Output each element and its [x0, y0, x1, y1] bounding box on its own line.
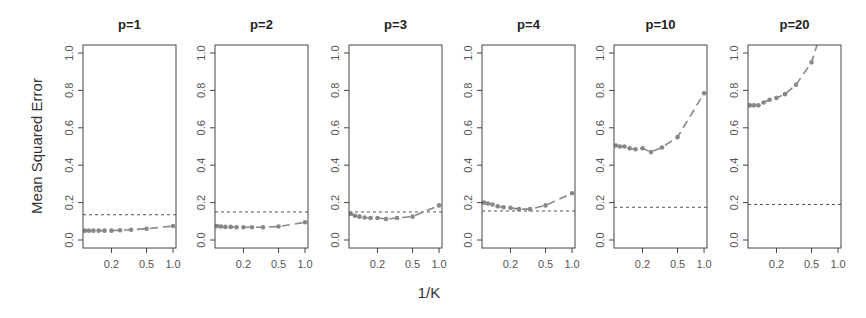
y-axis-title: Mean Squared Error	[28, 78, 45, 214]
x-tick-label: 0.2	[370, 258, 385, 270]
plot-frame	[215, 45, 308, 248]
knn-mse-point	[756, 103, 761, 108]
knn-mse-point	[223, 225, 228, 230]
knn-mse-point	[357, 214, 362, 219]
panel-p-2: p=20.00.20.40.60.81.00.20.51.0	[195, 17, 313, 270]
y-tick-label: 1.0	[594, 45, 606, 60]
y-tick-label: 0.0	[63, 232, 75, 247]
knn-mse-point	[87, 228, 92, 233]
knn-mse-point	[362, 215, 367, 220]
knn-mse-line	[750, 0, 838, 105]
knn-mse-point	[794, 82, 799, 87]
x-tick-label: 0.2	[769, 258, 784, 270]
x-axis-title: 1/K	[418, 284, 441, 301]
x-tick-label: 0.5	[405, 258, 420, 270]
y-tick-label: 0.4	[594, 158, 606, 173]
knn-mse-point	[129, 227, 134, 232]
knn-mse-point	[495, 204, 500, 209]
x-tick-label: 0.2	[236, 258, 251, 270]
knn-mse-point	[375, 216, 380, 221]
y-tick-label: 0.6	[63, 120, 75, 135]
panel-title: p=20	[780, 17, 810, 32]
knn-mse-point	[250, 225, 255, 230]
knn-mse-point	[528, 207, 533, 212]
knn-mse-point	[96, 228, 101, 233]
knn-mse-point	[102, 228, 107, 233]
y-tick-label: 0.6	[329, 120, 341, 135]
y-tick-label: 1.0	[63, 45, 75, 60]
x-tick-label: 0.5	[804, 258, 819, 270]
plot-frame	[482, 45, 575, 248]
knn-mse-point	[517, 207, 522, 212]
y-tick-label: 0.8	[594, 83, 606, 98]
knn-mse-point	[384, 217, 389, 222]
y-tick-label: 0.6	[462, 120, 474, 135]
y-tick-label: 0.8	[195, 83, 207, 98]
panel-title: p=10	[646, 17, 676, 32]
knn-mse-point	[368, 216, 373, 221]
panels: p=10.00.20.40.60.81.00.20.51.0p=20.00.20…	[63, 0, 846, 270]
knn-mse-point	[570, 191, 575, 196]
knn-mse-point	[761, 100, 766, 105]
y-tick-label: 1.0	[195, 45, 207, 60]
x-tick-label: 0.5	[670, 258, 685, 270]
y-tick-label: 0.0	[462, 232, 474, 247]
y-tick-label: 0.2	[329, 195, 341, 210]
y-tick-label: 0.8	[728, 83, 740, 98]
knn-mse-point	[508, 206, 513, 211]
knn-mse-point	[171, 224, 176, 229]
y-tick-label: 0.4	[329, 158, 341, 173]
y-tick-label: 0.0	[594, 232, 606, 247]
knn-mse-point	[809, 60, 814, 65]
panel-p-3: p=30.00.20.40.60.81.00.20.51.0	[329, 17, 447, 270]
y-tick-label: 0.0	[728, 232, 740, 247]
y-tick-label: 0.2	[594, 195, 606, 210]
panel-title: p=4	[517, 17, 541, 32]
knn-mse-point	[774, 96, 779, 101]
y-tick-label: 0.4	[195, 158, 207, 173]
x-tick-label: 1.0	[165, 258, 180, 270]
knn-mse-point	[543, 203, 548, 208]
y-tick-label: 0.8	[63, 83, 75, 98]
knn-mse-point	[261, 225, 266, 230]
x-tick-label: 1.0	[696, 258, 711, 270]
knn-mse-point	[437, 203, 442, 208]
x-tick-label: 1.0	[564, 258, 579, 270]
y-tick-label: 0.4	[728, 158, 740, 173]
x-tick-label: 1.0	[830, 258, 845, 270]
knn-mse-point	[228, 225, 233, 230]
y-tick-label: 0.2	[195, 195, 207, 210]
knn-mse-point	[501, 205, 506, 210]
panel-title: p=2	[250, 17, 273, 32]
plot-frame	[748, 45, 841, 248]
panel-p-20: p=200.00.20.40.60.81.00.20.51.0	[728, 0, 846, 270]
knn-mse-point	[118, 228, 123, 233]
knn-mse-point	[303, 220, 308, 225]
knn-mse-point	[109, 228, 114, 233]
knn-mse-point	[627, 146, 632, 151]
knn-mse-point	[633, 147, 638, 152]
y-tick-label: 1.0	[329, 45, 341, 60]
knn-mse-point	[618, 144, 623, 149]
knn-mse-point	[767, 97, 772, 102]
knn-mse-point	[91, 228, 96, 233]
x-tick-label: 0.2	[635, 258, 650, 270]
y-tick-label: 0.8	[329, 83, 341, 98]
y-tick-label: 0.4	[63, 158, 75, 173]
knn-mse-point	[241, 225, 246, 230]
y-tick-label: 0.4	[462, 158, 474, 173]
x-tick-label: 0.5	[271, 258, 286, 270]
knn-mse-point	[660, 145, 665, 150]
x-tick-label: 1.0	[431, 258, 446, 270]
knn-mse-point	[783, 92, 788, 97]
knn-mse-point	[219, 224, 224, 229]
x-tick-label: 0.2	[104, 258, 119, 270]
knn-mse-point	[486, 201, 491, 206]
panel-p-1: p=10.00.20.40.60.81.00.20.51.0	[63, 17, 181, 270]
knn-mse-point	[276, 224, 281, 229]
knn-mse-point	[702, 91, 707, 96]
y-tick-label: 0.2	[462, 195, 474, 210]
knn-mse-line	[616, 93, 704, 152]
x-tick-label: 0.2	[503, 258, 518, 270]
knn-mse-point	[752, 103, 757, 108]
